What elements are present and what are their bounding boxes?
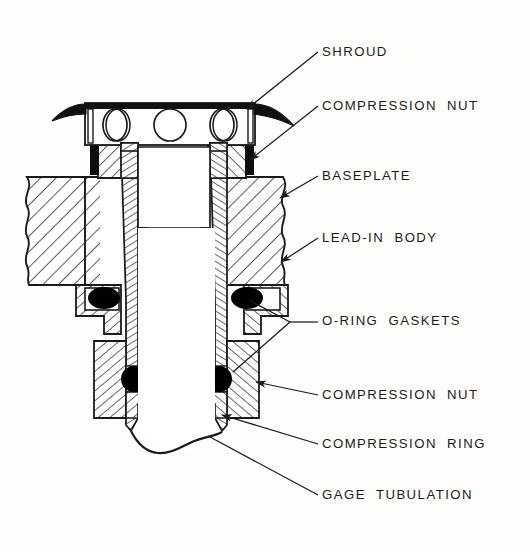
shroud-hole (154, 109, 186, 141)
o-ring (88, 287, 120, 309)
leader-gage-tubulation (210, 437, 318, 495)
callout-label-compression-ring: COMPRESSION RING (322, 436, 486, 451)
callout-label-gage-tubulation: GAGE TUBULATION (322, 487, 473, 502)
shroud-hole (103, 109, 130, 141)
callout-label-lead-in-body: LEAD-IN BODY (322, 230, 438, 245)
part-gage-tubulation (131, 228, 222, 453)
callout-label-shroud: SHROUD (322, 44, 388, 59)
shroud-hole (210, 109, 237, 141)
callout-label-baseplate: BASEPLATE (322, 168, 411, 183)
leader-compression-ring (222, 415, 318, 444)
callout-label-compression-nut-1: COMPRESSION NUT (322, 98, 479, 113)
leader-shroud (247, 52, 318, 109)
cross-section-drawing: SHROUD COMPRESSION NUT BASEPLATE LEAD-IN… (0, 0, 530, 552)
technical-diagram-figure: SHROUD COMPRESSION NUT BASEPLATE LEAD-IN… (0, 0, 530, 552)
o-ring (231, 287, 263, 309)
leader-compression-nut-lower (256, 382, 318, 395)
part-shroud (52, 103, 294, 145)
callout-label-compression-nut-2: COMPRESSION NUT (322, 387, 479, 402)
callout-label-o-ring-gaskets: O-RING GASKETS (322, 313, 461, 328)
leader-lead-in-body (281, 238, 318, 262)
